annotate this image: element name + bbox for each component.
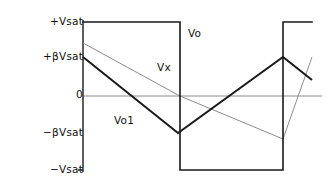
curve-label-vo1: Vo1 bbox=[114, 115, 134, 126]
axis-label-zero: 0 bbox=[76, 89, 83, 100]
waveform-plot bbox=[0, 0, 327, 188]
axis-label-beta-vsat-positive: +βVsat bbox=[43, 51, 83, 62]
axis-label-vsat-positive: +Vsat bbox=[50, 16, 83, 27]
axis-label-beta-vsat-negative: −βVsat bbox=[43, 127, 83, 138]
curve-label-vx: Vx bbox=[157, 62, 171, 73]
curve-label-vo: Vo bbox=[188, 28, 201, 39]
axis-label-vsat-negative: −Vsat bbox=[50, 164, 83, 175]
waveform-figure: +Vsat +βVsat 0 −βVsat −Vsat Vo Vx Vo1 bbox=[0, 0, 327, 188]
